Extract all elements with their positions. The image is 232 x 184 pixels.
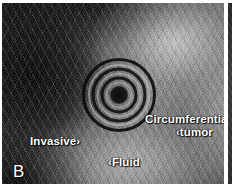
annotation-invasive-text: Invasive xyxy=(30,135,76,147)
ultrasound-image: Invasive› Circumferential ‹tumor ‹Fluid … xyxy=(2,3,224,184)
annotation-fluid-text: Fluid xyxy=(112,156,140,168)
annotation-invasive: Invasive› xyxy=(30,135,80,148)
annotation-tumor-line1: Circumferential xyxy=(145,113,224,125)
panel-letter: B xyxy=(13,163,24,181)
annotation-circumferential-tumor: Circumferential ‹tumor xyxy=(145,113,224,138)
adjacent-panel-sliver xyxy=(228,3,232,184)
annotation-fluid: ‹Fluid xyxy=(108,156,140,169)
chevron-right-icon: › xyxy=(76,135,80,147)
figure-panel-b: Invasive› Circumferential ‹tumor ‹Fluid … xyxy=(0,0,232,184)
annotation-tumor-line2: ‹tumor xyxy=(145,126,224,139)
annotation-tumor-line2-text: tumor xyxy=(180,126,213,138)
